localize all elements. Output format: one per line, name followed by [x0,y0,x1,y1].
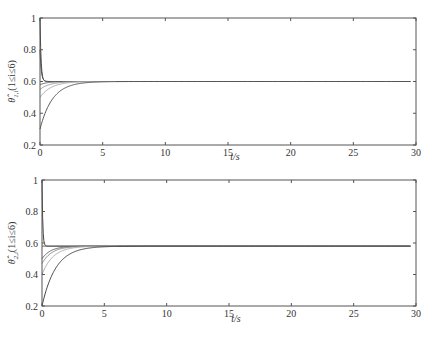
axes-frame [42,180,416,306]
y-tick-label: 0.8 [24,44,37,55]
data-series-group [40,18,410,129]
series-line-i4 [42,246,410,263]
x-tick-label: 10 [160,147,170,158]
y-tick-label: 1 [33,175,38,186]
series-line-i2 [40,50,410,82]
series-line-i1 [40,18,410,82]
y-axis-label: θ̂1,i(1≤i≤6) [6,60,20,103]
x-tick-label: 30 [411,308,421,319]
series-line-i6 [42,246,410,306]
x-axis-label: t/s [231,313,241,324]
x-tick-label: 5 [102,308,107,319]
x-tick-label: 20 [286,308,296,319]
top-plot-theta-1: 0510152025300.20.40.60.81t/sθ̂1,i(1≤i≤6) [6,13,421,163]
y-tick-label: 0.8 [26,206,39,217]
series-line-i1 [42,180,410,246]
y-tick-label: 0.6 [24,76,37,87]
x-tick-label: 25 [348,147,358,158]
x-axis-label: t/s [230,151,240,162]
y-tick-label: 0.2 [26,301,39,312]
y-tick-label: 0.2 [24,140,37,151]
y-tick-label: 0.6 [26,238,39,249]
series-line-i5 [40,82,410,98]
x-tick-label: 10 [162,308,172,319]
series-line-i6 [40,82,410,130]
data-series-group [42,180,410,306]
y-axis-label: θ̂2,i(1≤i≤6) [6,222,20,265]
x-tick-label: 0 [40,308,45,319]
y-tick-label: 0.4 [26,269,39,280]
x-tick-label: 25 [349,308,359,319]
figure: 0510152025300.20.40.60.81t/sθ̂1,i(1≤i≤6)… [0,0,432,338]
series-line-i4 [40,82,410,90]
series-line-i5 [42,246,410,274]
x-tick-label: 5 [100,147,105,158]
x-tick-label: 30 [411,147,421,158]
series-line-i3 [42,246,410,259]
x-tick-label: 0 [38,147,43,158]
y-tick-label: 1 [31,13,36,24]
x-tick-label: 20 [286,147,296,158]
y-tick-label: 0.4 [24,108,37,119]
bottom-plot-theta-2: 0510152025300.20.40.60.81t/sθ̂2,i(1≤i≤6) [6,175,421,325]
